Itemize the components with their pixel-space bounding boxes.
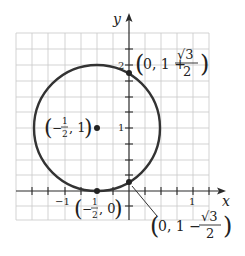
svg-text:2: 2	[62, 129, 68, 139]
upper-intercept-point	[126, 70, 132, 76]
lower-intercept-point	[126, 179, 132, 185]
x-axis-label: x	[222, 193, 230, 209]
svg-text:−: −	[82, 202, 92, 216]
svg-text:2: 2	[92, 210, 98, 220]
svg-text:1: 1	[92, 197, 98, 207]
svg-text:): )	[200, 50, 209, 78]
tangent-label: ( − 1 2 , 0 )	[74, 196, 123, 221]
center-label: ( − 1 2 , 1 )	[44, 115, 93, 140]
x-tick-label-1: 1	[189, 196, 195, 207]
x-tick-label-neg1: −1	[55, 196, 70, 207]
upper-intercept-label: ( 0, 1 + √3 2 )	[135, 47, 209, 79]
svg-text:√3: √3	[177, 47, 194, 62]
tangent-point	[94, 188, 100, 194]
svg-text:−: −	[52, 121, 62, 135]
y-axis	[126, 13, 133, 220]
svg-text:1: 1	[62, 116, 68, 126]
svg-text:0, 1 −: 0, 1 −	[158, 218, 201, 234]
svg-text:√3: √3	[201, 209, 218, 224]
center-point	[94, 125, 100, 131]
coordinate-plane: y x −1 1 1 2 ( − 1 2 , 1 ) ( − 1 2 , 0 )…	[0, 0, 245, 256]
svg-text:): )	[223, 212, 232, 240]
svg-text:2: 2	[183, 64, 191, 79]
y-tick-label-1: 1	[118, 122, 124, 133]
svg-text:2: 2	[206, 226, 214, 241]
svg-text:): )	[114, 196, 123, 221]
svg-text:): )	[84, 115, 93, 140]
y-axis-label: y	[112, 11, 122, 27]
lower-intercept-label: ( 0, 1 − √3 2 )	[150, 209, 232, 241]
